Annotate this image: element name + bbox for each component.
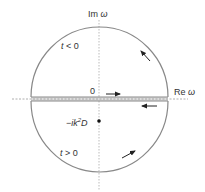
upper-cond: < 0 xyxy=(64,41,79,51)
pole-point xyxy=(97,119,101,123)
upper-region-label: t < 0 xyxy=(61,42,79,51)
origin-label: 0 xyxy=(90,87,95,96)
arrow-lower-arc-icon xyxy=(122,151,135,158)
imaginary-axis-label: Im ω xyxy=(88,10,108,19)
imag-var: ω xyxy=(101,9,108,19)
pole-prefix: −ik xyxy=(66,118,78,128)
real-axis-label: Re ω xyxy=(174,88,195,97)
real-prefix: Re xyxy=(174,87,188,97)
arrow-upper-arc-icon xyxy=(141,51,150,61)
real-var: ω xyxy=(188,87,195,97)
upper-contour-arc xyxy=(31,27,168,97)
pole-suffix: D xyxy=(81,118,88,128)
lower-cond: > 0 xyxy=(63,148,78,158)
lower-region-label: t > 0 xyxy=(60,149,78,158)
pole-label: −ik2D xyxy=(66,117,88,128)
contour-diagram: Im ω Re ω 0 t < 0 t > 0 −ik2D xyxy=(0,0,205,192)
imag-prefix: Im xyxy=(88,9,101,19)
lower-contour-arc xyxy=(31,101,168,172)
